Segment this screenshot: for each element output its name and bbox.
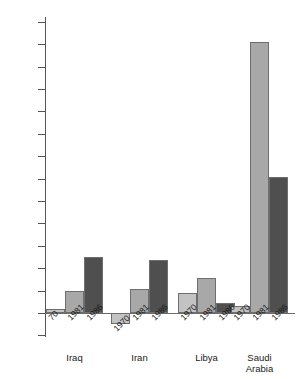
y-tick [38, 134, 45, 135]
y-tick-label: 11 [0, 62, 36, 71]
y-tick-label: 1 [0, 286, 36, 295]
y-tick-label: 2 [0, 263, 36, 272]
y-tick [38, 22, 45, 23]
y-tick-label: 9 [0, 106, 36, 115]
y-tick [38, 223, 45, 224]
group-label: Saudi Arabia [225, 352, 295, 374]
y-tick [38, 246, 45, 247]
group-label: Iraq [40, 352, 110, 363]
y-tick [38, 313, 45, 314]
y-tick-label: 6 [0, 174, 36, 183]
y-tick [38, 335, 45, 336]
y-tick [38, 268, 45, 269]
bar-chart: Billions of U.S. dollars 131211109876543… [0, 0, 301, 379]
y-tick [38, 67, 45, 68]
y-tick [38, 111, 45, 112]
y-tick-label: 7 [0, 151, 36, 160]
y-tick-label: 0 [0, 308, 36, 317]
bar [250, 42, 269, 313]
y-tick-label: 3 [0, 241, 36, 250]
y-tick-label: 4 [0, 218, 36, 227]
y-tick [38, 156, 45, 157]
y-tick-label: 10 [0, 84, 36, 93]
y-tick-label: 12 [0, 39, 36, 48]
y-tick-label: -1 [0, 330, 36, 339]
y-axis-line [45, 17, 46, 337]
y-tick-label: 5 [0, 196, 36, 205]
y-tick [38, 89, 45, 90]
group-label: Iran [105, 352, 175, 363]
y-tick [38, 291, 45, 292]
y-tick [38, 44, 45, 45]
y-tick-label: 8 [0, 129, 36, 138]
y-tick [38, 179, 45, 180]
bar [269, 177, 288, 313]
y-tick-label: 13 [0, 17, 36, 26]
y-tick [38, 201, 45, 202]
